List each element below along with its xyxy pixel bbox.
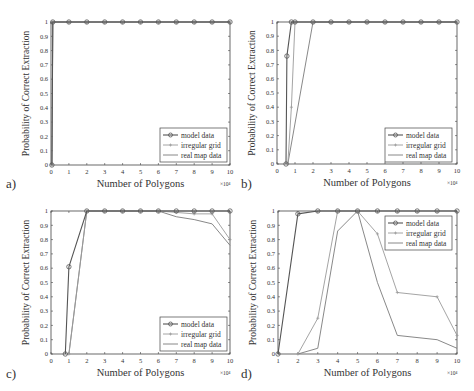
x-tick-label: 3 (329, 167, 332, 174)
x-tick-label: 3 (316, 357, 319, 364)
x-exponent-label: ×10⁴ (220, 370, 231, 376)
x-tick-label: 4 (121, 357, 125, 364)
y-tick-label: 0.7 (40, 61, 49, 68)
x-tick-label: 7 (175, 168, 179, 175)
y-tick-label: 0.3 (40, 118, 48, 125)
y-axis-label: Probability of Correct Extraction (21, 220, 31, 346)
y-tick-label: 0.4 (40, 293, 49, 300)
panel-b: 01234567891000.10.20.30.40.50.60.70.80.9… (241, 18, 460, 191)
y-tick-label: 0.6 (40, 264, 49, 271)
y-tick-label: 0.9 (40, 222, 48, 229)
x-tick-label: 6 (157, 168, 161, 175)
x-tick-label: 9 (437, 167, 440, 174)
y-tick-label: 0.5 (40, 90, 48, 97)
x-tick-label: 0 (49, 168, 52, 175)
x-axis-label: Number of Polygons (97, 367, 185, 378)
legend: model datairregular gridreal map data (160, 317, 227, 351)
x-tick-label: 8 (193, 357, 196, 364)
legend-label: real map data (406, 151, 447, 160)
y-axis-label: Probability of Correct Extraction (248, 220, 258, 346)
x-axis-label: Number of Polygons (97, 178, 185, 189)
x-tick-label: 1 (293, 167, 296, 174)
y-tick-label: 0.6 (267, 264, 276, 271)
x-tick-label: 9 (210, 357, 213, 364)
panel-label: b) (241, 176, 252, 191)
y-tick-label: 0.3 (267, 307, 275, 314)
y-tick-label: 0.3 (40, 307, 48, 314)
x-tick-label: 2 (85, 357, 88, 364)
x-axis-label: Number of Polygons (324, 367, 412, 378)
y-tick-label: 0.2 (40, 322, 48, 329)
x-tick-label: 8 (193, 168, 196, 175)
y-tick-label: 0.8 (40, 236, 48, 243)
x-tick-label: 1 (276, 357, 279, 364)
x-tick-label: 1 (67, 168, 70, 175)
y-tick-label: 0.2 (267, 322, 275, 329)
marker-plus (290, 106, 293, 109)
marker-plus (455, 334, 458, 337)
y-tick-label: 1 (271, 18, 274, 25)
x-tick-label: 4 (347, 167, 351, 174)
x-tick-label: 2 (296, 357, 299, 364)
y-tick-label: 0.9 (266, 32, 274, 39)
y-tick-label: 0.8 (267, 236, 275, 243)
y-tick-label: 0.4 (267, 293, 276, 300)
legend-label: model data (181, 320, 215, 329)
y-tick-label: 0.2 (40, 133, 48, 140)
legend: model datairregular gridreal map data (160, 128, 227, 162)
x-tick-label: 6 (157, 357, 161, 364)
x-tick-label: 5 (139, 357, 142, 364)
x-exponent-label: ×10⁴ (447, 180, 458, 186)
legend: model datairregular gridreal map data (385, 128, 452, 162)
y-tick-label: 0.5 (266, 89, 274, 96)
x-tick-label: 0 (275, 167, 278, 174)
panel-c: 01234567891000.10.20.30.40.50.60.70.80.9… (6, 207, 233, 381)
x-tick-label: 4 (121, 168, 125, 175)
y-tick-label: 0.1 (40, 147, 48, 154)
marker-plus (436, 295, 439, 298)
y-tick-label: 0 (271, 160, 274, 167)
x-exponent-label: ×10⁴ (447, 370, 458, 376)
y-tick-label: 0.1 (40, 336, 48, 343)
legend-label: irregular grid (406, 229, 446, 238)
x-tick-label: 2 (85, 168, 88, 175)
y-tick-label: 0 (272, 350, 275, 357)
x-tick-label: 2 (311, 167, 314, 174)
panel-a: 01234567891000.10.20.30.40.50.60.70.80.9… (6, 18, 233, 191)
y-tick-label: 0.8 (40, 47, 48, 54)
legend-label: irregular grid (181, 330, 221, 339)
x-tick-label: 10 (454, 357, 461, 364)
y-tick-label: 0.5 (267, 279, 275, 286)
x-tick-label: 3 (103, 168, 106, 175)
y-tick-label: 0.8 (266, 47, 274, 54)
y-tick-label: 0.3 (266, 118, 274, 125)
y-axis-label: Probability of Correct Extraction (247, 30, 257, 156)
legend-label: model data (406, 131, 440, 140)
y-tick-label: 0.9 (267, 222, 275, 229)
x-tick-label: 8 (419, 167, 422, 174)
legend-label: model data (406, 219, 440, 228)
legend-label: real map data (181, 340, 222, 349)
x-tick-label: 4 (336, 357, 340, 364)
legend-label: irregular grid (406, 141, 446, 150)
panel-label: a) (6, 176, 16, 191)
y-tick-label: 0.4 (266, 103, 275, 110)
y-tick-label: 0.6 (266, 75, 275, 82)
panel-label: c) (6, 366, 16, 381)
x-tick-label: 10 (454, 167, 461, 174)
x-tick-label: 3 (103, 357, 106, 364)
chart-canvas: 01234567891000.10.20.30.40.50.60.70.80.9… (0, 0, 474, 391)
x-tick-label: 1 (67, 357, 70, 364)
y-tick-label: 0.4 (40, 104, 49, 111)
legend-label: irregular grid (181, 141, 221, 150)
y-tick-label: 0.1 (266, 146, 274, 153)
panel-label: d) (241, 366, 252, 381)
figure-2x2-panels: 01234567891000.10.20.30.40.50.60.70.80.9… (0, 0, 474, 391)
x-tick-label: 9 (435, 357, 438, 364)
y-tick-label: 0.9 (40, 33, 48, 40)
y-tick-label: 0.7 (40, 250, 49, 257)
x-exponent-label: ×10⁴ (220, 181, 231, 187)
x-tick-label: 10 (227, 357, 234, 364)
marker-plus (396, 291, 399, 294)
x-tick-label: 10 (227, 168, 234, 175)
